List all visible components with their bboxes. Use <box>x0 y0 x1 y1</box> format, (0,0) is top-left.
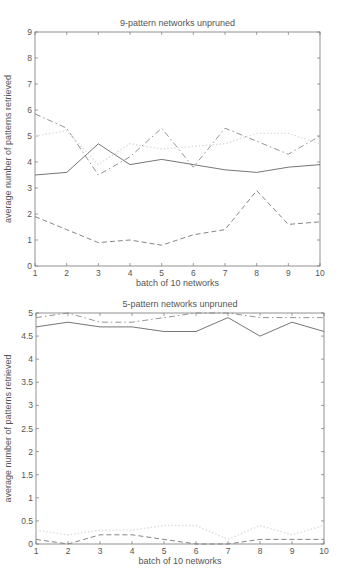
x-tick-label: 7 <box>223 268 228 278</box>
series-dotted <box>36 526 324 540</box>
x-tick-label: 10 <box>315 268 325 278</box>
y-tick-label: 0.5 <box>21 516 33 526</box>
x-tick-label: 10 <box>319 546 329 556</box>
x-tick-label: 5 <box>162 546 167 556</box>
x-tick-label: 8 <box>254 268 259 278</box>
series-dotted <box>35 131 320 165</box>
y-tick-label: 4 <box>27 157 32 167</box>
chart-title: 9-pattern networks unpruned <box>120 18 235 28</box>
series-dash-dot <box>35 114 320 175</box>
y-axis-label: average number of patterns retrieved <box>3 75 13 223</box>
y-tick-label: 2.5 <box>21 424 33 434</box>
y-tick-label: 5 <box>27 131 32 141</box>
y-tick-label: 4.5 <box>21 331 33 341</box>
x-tick-label: 2 <box>64 268 69 278</box>
x-axis-label: batch of 10 networks <box>138 556 222 566</box>
series-solid <box>35 144 320 175</box>
x-tick-label: 9 <box>286 268 291 278</box>
y-tick-label: 1.5 <box>21 470 33 480</box>
y-tick-label: 0 <box>28 539 33 549</box>
x-tick-label: 2 <box>66 546 71 556</box>
y-tick-label: 0 <box>27 261 32 271</box>
y-tick-label: 8 <box>27 53 32 63</box>
y-tick-label: 1 <box>27 235 32 245</box>
x-tick-label: 5 <box>159 268 164 278</box>
x-tick-label: 6 <box>194 546 199 556</box>
y-axis-label: average number of patterns retrieved <box>3 354 13 502</box>
y-tick-label: 4 <box>28 354 33 364</box>
series-dash-dot <box>36 313 324 322</box>
x-tick-label: 3 <box>98 546 103 556</box>
y-tick-label: 3.5 <box>21 377 33 387</box>
x-tick-label: 1 <box>33 268 38 278</box>
x-tick-label: 7 <box>226 546 231 556</box>
axes-box <box>36 313 324 544</box>
x-tick-label: 8 <box>258 546 263 556</box>
y-tick-label: 5 <box>28 308 33 318</box>
y-tick-label: 1 <box>28 493 33 503</box>
y-tick-label: 2 <box>28 447 33 457</box>
chart-9-pattern: 1234567891001234567899-pattern networks … <box>3 18 325 288</box>
figure: 1234567891001234567899-pattern networks … <box>0 0 342 584</box>
y-tick-label: 7 <box>27 79 32 89</box>
y-tick-label: 3 <box>27 183 32 193</box>
y-tick-label: 6 <box>27 105 32 115</box>
x-tick-label: 6 <box>191 268 196 278</box>
x-tick-label: 9 <box>290 546 295 556</box>
x-tick-label: 4 <box>128 268 133 278</box>
series-dashed <box>36 535 324 544</box>
x-axis-label: batch of 10 networks <box>136 278 220 288</box>
chart-title: 5-pattern networks unpruned <box>122 299 237 309</box>
series-dashed <box>35 191 320 246</box>
series-solid <box>36 318 324 337</box>
x-tick-label: 3 <box>96 268 101 278</box>
x-tick-label: 4 <box>130 546 135 556</box>
y-tick-label: 3 <box>28 400 33 410</box>
chart-5-pattern: 1234567891000.511.522.533.544.555-patter… <box>3 299 329 566</box>
y-tick-label: 9 <box>27 27 32 37</box>
axes-box <box>35 32 320 266</box>
x-tick-label: 1 <box>34 546 39 556</box>
y-tick-label: 2 <box>27 209 32 219</box>
